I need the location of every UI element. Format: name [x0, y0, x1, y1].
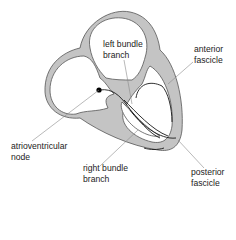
label-right-bundle-branch: right bundle branch — [83, 163, 128, 185]
label-posterior-fascicle: posterior fascicle — [191, 167, 224, 189]
label-atrioventricular-node: atrioventricular node — [11, 141, 67, 163]
label-left-bundle-branch: left bundle branch — [103, 39, 143, 61]
leader-posterior — [178, 140, 204, 168]
label-anterior-fascicle: anterior fascicle — [194, 44, 223, 66]
